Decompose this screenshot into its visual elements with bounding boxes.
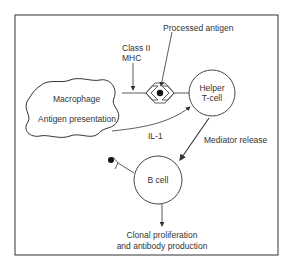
t-cell-label: T-cell	[196, 93, 228, 103]
il1-label: IL-1	[148, 131, 163, 141]
antigen-receptor-icon	[113, 157, 134, 173]
macrophage-cloud	[26, 79, 119, 138]
il1-arrow	[112, 107, 190, 131]
mediator-release-label: Mediator release	[204, 135, 267, 145]
antigen-dot	[108, 157, 114, 163]
macrophage-label: Macrophage	[53, 94, 100, 104]
processed-antigen-label: Processed antigen	[163, 23, 233, 33]
helper-label: Helper	[196, 83, 228, 93]
antibody-production-label: and antibody production	[100, 241, 224, 251]
antigen-presentation-label: Antigen presentation	[38, 114, 116, 124]
class-ii-label: Class II	[122, 43, 150, 53]
clonal-proliferation-label: Clonal proliferation	[100, 230, 224, 240]
processed-antigen-dot	[157, 90, 163, 96]
b-cell-label: B cell	[138, 175, 178, 185]
mhc-label: MHC	[122, 53, 141, 63]
processed-antigen-pointer	[161, 32, 172, 86]
